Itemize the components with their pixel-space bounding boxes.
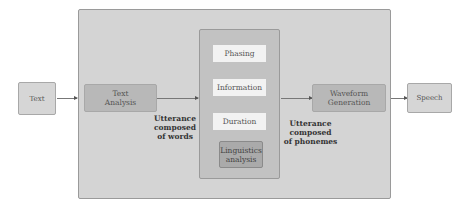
output-speech-box: Speech — [407, 83, 452, 113]
duration-label: Duration — [223, 117, 257, 126]
phonemes-line1: Utterance — [283, 119, 338, 128]
waveform-generation-box: WaveformGeneration — [312, 84, 386, 112]
waveform-line2: Generation — [328, 98, 371, 107]
arrow-prosody-to-waveform — [281, 98, 312, 99]
linguistics-analysis-box: Linguisticsanalysis — [219, 141, 263, 168]
information-label: Information — [217, 83, 262, 92]
utterance-words-label: Utterance composed of words — [150, 114, 200, 141]
linguistics-line1: Linguistics — [220, 146, 262, 155]
words-line3: of words — [150, 132, 200, 141]
arrow-waveform-to-speech — [391, 98, 407, 99]
duration-box: Duration — [213, 113, 266, 130]
phasing-box: Phasing — [213, 45, 266, 62]
input-text-box: Text — [18, 82, 56, 115]
phonemes-line2: composed — [283, 128, 338, 137]
text-analysis-line2: Analysis — [105, 98, 136, 107]
text-analysis-line1: Text — [105, 89, 136, 98]
phasing-label: Phasing — [224, 49, 254, 58]
waveform-line1: Waveform — [328, 89, 371, 98]
text-analysis-box: TextAnalysis — [84, 84, 157, 112]
input-label: Text — [29, 95, 44, 103]
arrow-input-to-analysis — [57, 98, 77, 99]
phonemes-line3: of phonemes — [283, 137, 338, 146]
linguistics-line2: analysis — [220, 155, 262, 164]
words-line2: composed — [150, 123, 200, 132]
words-line1: Utterance — [150, 114, 200, 123]
utterance-phonemes-label: Utterance composed of phonemes — [283, 119, 338, 146]
output-label: Speech — [417, 94, 443, 102]
arrow-analysis-to-prosody — [157, 98, 198, 99]
information-box: Information — [213, 79, 266, 96]
